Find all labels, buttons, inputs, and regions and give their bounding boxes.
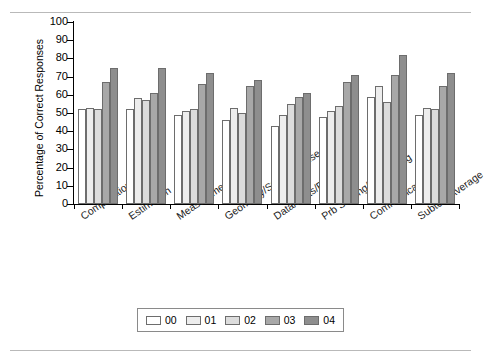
- bar-03-0: [102, 82, 110, 204]
- y-tick-label: 90: [20, 34, 68, 45]
- x-tick-mark: [411, 204, 412, 209]
- y-tick-label: 0: [20, 198, 68, 209]
- bar-03-4: [295, 97, 303, 204]
- bar-03-6: [391, 75, 399, 204]
- bar-group: [126, 22, 166, 204]
- bar-03-2: [198, 84, 206, 204]
- bar-01-1: [134, 98, 142, 204]
- y-tick-label: 50: [20, 107, 68, 118]
- chart-legend: 0001020304: [137, 308, 344, 332]
- bar-00-0: [78, 109, 86, 204]
- bar-group: [367, 22, 407, 204]
- bar-03-5: [343, 82, 351, 204]
- bar-00-3: [222, 120, 230, 204]
- bar-01-0: [86, 108, 94, 204]
- bar-02-6: [383, 102, 391, 204]
- bar-00-2: [174, 115, 182, 204]
- bar-03-1: [150, 93, 158, 204]
- legend-swatch-icon: [225, 316, 240, 325]
- bar-01-6: [375, 86, 383, 204]
- bar-02-5: [335, 106, 343, 204]
- bar-04-7: [447, 73, 455, 204]
- bar-02-3: [238, 113, 246, 204]
- bar-02-2: [190, 109, 198, 204]
- legend-swatch-icon: [304, 316, 319, 325]
- bar-02-7: [431, 109, 439, 204]
- legend-label: 04: [323, 315, 335, 326]
- legend-label: 00: [165, 315, 177, 326]
- legend-label: 02: [244, 315, 256, 326]
- x-tick-mark: [459, 204, 460, 209]
- bar-00-6: [367, 97, 375, 204]
- legend-label: 01: [205, 315, 217, 326]
- y-tick-label: 100: [20, 16, 68, 27]
- legend-item-03[interactable]: 03: [265, 315, 296, 326]
- bar-03-7: [439, 86, 447, 204]
- bar-01-4: [279, 115, 287, 204]
- bar-01-7: [423, 108, 431, 204]
- x-tick-mark: [170, 204, 171, 209]
- plot-area: [74, 22, 459, 204]
- bar-02-4: [287, 104, 295, 204]
- x-tick-mark: [122, 204, 123, 209]
- bar-group: [415, 22, 455, 204]
- bar-00-4: [271, 126, 279, 204]
- y-tick-label: 80: [20, 52, 68, 63]
- x-tick-mark: [363, 204, 364, 209]
- bar-04-6: [399, 55, 407, 204]
- bar-00-1: [126, 109, 134, 204]
- legend-item-01[interactable]: 01: [186, 315, 217, 326]
- bar-group: [319, 22, 359, 204]
- legend-label: 03: [284, 315, 296, 326]
- y-tick-label: 40: [20, 125, 68, 136]
- y-tick-label: 30: [20, 143, 68, 154]
- bar-04-5: [351, 75, 359, 204]
- legend-swatch-icon: [146, 316, 161, 325]
- bar-04-2: [206, 73, 214, 204]
- y-tick-label: 60: [20, 89, 68, 100]
- legend-swatch-icon: [265, 316, 280, 325]
- bar-04-4: [303, 93, 311, 204]
- bar-group: [222, 22, 262, 204]
- bar-01-5: [327, 111, 335, 204]
- legend-item-04[interactable]: 04: [304, 315, 335, 326]
- bar-04-1: [158, 68, 166, 205]
- legend-item-00[interactable]: 00: [146, 315, 177, 326]
- legend-swatch-icon: [186, 316, 201, 325]
- bar-00-5: [319, 117, 327, 204]
- bar-01-3: [230, 108, 238, 204]
- bar-02-0: [94, 109, 102, 204]
- x-tick-mark: [315, 204, 316, 209]
- bar-01-2: [182, 111, 190, 204]
- legend-item-02[interactable]: 02: [225, 315, 256, 326]
- x-tick-mark: [74, 204, 75, 209]
- bar-04-3: [254, 80, 262, 204]
- bar-04-0: [110, 68, 118, 205]
- x-tick-mark: [267, 204, 268, 209]
- bar-group: [174, 22, 214, 204]
- bar-03-3: [246, 86, 254, 204]
- y-tick-label: 20: [20, 162, 68, 173]
- bar-02-1: [142, 100, 150, 204]
- bar-00-7: [415, 115, 423, 204]
- bar-group: [78, 22, 118, 204]
- x-tick-mark: [218, 204, 219, 209]
- y-tick-label: 10: [20, 180, 68, 191]
- y-tick-label: 70: [20, 71, 68, 82]
- bar-group: [271, 22, 311, 204]
- y-axis-tick-labels: 1009080706050403020100: [14, 0, 68, 230]
